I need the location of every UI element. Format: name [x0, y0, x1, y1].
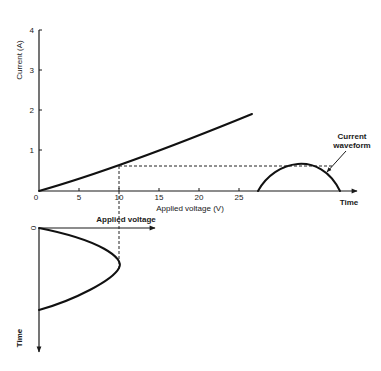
iv-curve [39, 114, 252, 191]
upper-chart: 4 3 2 1 0 5 10 15 20 25 Current (A) Appl… [15, 26, 371, 270]
x-tick-label: 0 [34, 193, 39, 202]
x-tick-label: 5 [77, 193, 82, 202]
y-tick-label: 2 [30, 106, 35, 115]
x-tick-label: 20 [195, 193, 204, 202]
x-ticks: 0 5 10 15 20 25 [34, 188, 244, 202]
waveform-label-line1: Current [338, 132, 367, 141]
waveform-label-line2: waveform [332, 141, 370, 150]
time-axis-label: Time [340, 198, 359, 207]
voltage-waveform [39, 228, 120, 310]
lower-chart: 0 Applied voltage Time [15, 215, 156, 352]
x-tick-label: 25 [235, 193, 244, 202]
voltage-axis-label: Applied voltage (V) [156, 204, 224, 213]
lower-time-axis-label: Time [15, 328, 24, 347]
x-tick-label: 15 [155, 193, 164, 202]
lower-voltage-axis-label: Applied voltage [96, 215, 156, 224]
current-axis-label: Current (A) [15, 40, 24, 80]
y-tick-label: 3 [30, 66, 35, 75]
y-tick-label: 1 [30, 146, 35, 155]
lower-origin-label: 0 [29, 225, 38, 230]
y-tick-label: 4 [30, 26, 35, 35]
current-waveform [258, 164, 340, 191]
waveform-pointer [327, 151, 346, 172]
y-ticks: 4 3 2 1 [30, 26, 42, 155]
iv-projection-diagram: 4 3 2 1 0 5 10 15 20 25 Current (A) Appl… [0, 0, 381, 371]
